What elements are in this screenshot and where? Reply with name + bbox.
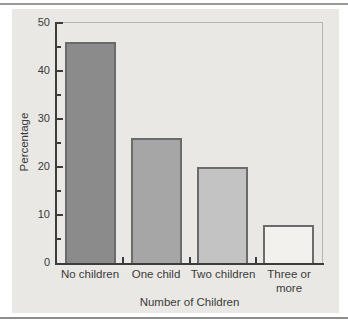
y-tick-label-40: 40 [20, 63, 50, 77]
y-axis-major-tick [57, 118, 63, 120]
chart-panel: Percentage 50 40 30 20 10 0 No children … [12, 9, 339, 313]
y-axis-minor-tick [57, 238, 61, 240]
bar-no-children [65, 42, 116, 263]
y-tick-label-20: 20 [20, 159, 50, 173]
y-axis-title: Percentage [17, 22, 31, 262]
top-rule [0, 3, 348, 5]
bar-two-children [197, 167, 248, 263]
y-axis-major-tick [57, 70, 63, 72]
y-axis-minor-tick [57, 46, 61, 48]
y-axis-major-tick [57, 166, 63, 168]
bar-one-child [131, 138, 182, 263]
y-axis-major-tick [57, 214, 63, 216]
y-axis-minor-tick [57, 94, 61, 96]
y-tick-label-0: 0 [20, 255, 50, 269]
y-tick-label-10: 10 [20, 207, 50, 221]
y-axis-minor-tick [57, 190, 61, 192]
x-category-label-two-children: Two children [183, 267, 263, 281]
y-tick-label-50: 50 [20, 15, 50, 29]
x-axis-line [55, 263, 324, 265]
figure: Percentage 50 40 30 20 10 0 No children … [0, 0, 348, 325]
y-axis-major-tick [57, 22, 63, 24]
y-axis-minor-tick [57, 142, 61, 144]
plot-area [57, 22, 323, 263]
x-axis-title: Number of Children [57, 296, 322, 308]
y-tick-label-30: 30 [20, 111, 50, 125]
x-category-label-three-or-more: Three or more [261, 267, 317, 295]
bottom-rule [0, 317, 348, 319]
bar-three-or-more [263, 225, 314, 263]
x-axis-category-tick [255, 257, 257, 263]
x-axis-category-tick [122, 257, 124, 263]
x-axis-category-tick [189, 257, 191, 263]
